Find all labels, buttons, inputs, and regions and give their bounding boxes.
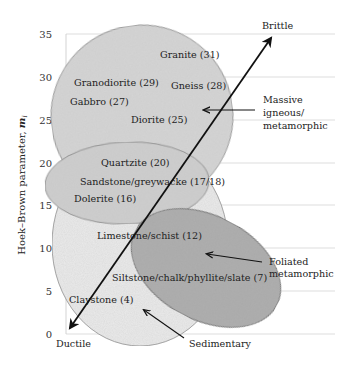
y-tick: 15	[39, 200, 52, 211]
foliated-label-line2: metamorphic	[269, 268, 334, 279]
sedimentary-label: Sedimentary	[189, 338, 252, 349]
hoek-brown-diagram: 0 5 10 15 20 25 30 35 Hoek–Brown paramet…	[0, 0, 352, 365]
y-axis-label: Hoek–Brown parameter, mi	[16, 115, 29, 254]
rock-label-sandstone: Sandstone/greywacke (17/18)	[80, 176, 225, 187]
y-tick: 35	[39, 29, 52, 40]
rock-label-diorite: Diorite (25)	[131, 114, 187, 125]
rock-label-siltstone: Siltstone/chalk/phyllite/slate (7)	[112, 272, 267, 283]
y-tick: 25	[39, 115, 52, 126]
rock-label-limestone: Limestone/schist (12)	[97, 230, 202, 241]
rock-label-gneiss: Gneiss (28)	[171, 80, 226, 91]
massive-label-line1: Massive	[263, 94, 303, 105]
foliated-label-line1: Foliated	[269, 256, 308, 267]
ductile-label: Ductile	[56, 338, 91, 349]
rock-label-quartzite: Quartzite (20)	[101, 157, 170, 168]
rock-label-granodiorite: Granodiorite (29)	[74, 77, 159, 88]
y-tick: 30	[39, 72, 52, 83]
y-tick: 5	[46, 286, 52, 297]
rock-label-granite: Granite (31)	[160, 49, 220, 60]
y-tick: 0	[46, 329, 52, 340]
y-tick: 10	[39, 243, 52, 254]
massive-label-line3: metamorphic	[263, 120, 328, 131]
rock-label-dolerite: Dolerite (16)	[74, 193, 136, 204]
rock-label-claystone: Claystone (4)	[69, 294, 134, 305]
massive-label-line2: igneous/	[263, 107, 305, 118]
rock-label-gabbro: Gabbro (27)	[70, 96, 129, 107]
brittle-label: Brittle	[262, 20, 293, 31]
y-tick: 20	[39, 158, 52, 169]
